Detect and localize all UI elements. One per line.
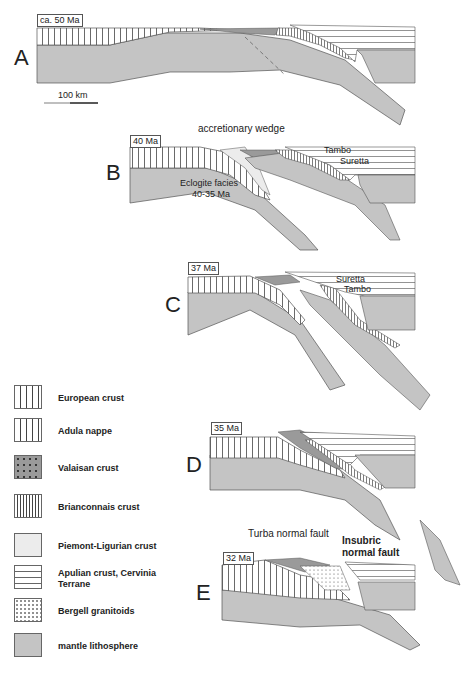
panel-letter-a: A <box>14 45 29 71</box>
slab-fragment <box>420 520 460 585</box>
annotation-turba-fault: Turba normal fault <box>248 528 329 539</box>
swatch-brianconnais <box>14 494 42 518</box>
swatch-mantle <box>14 633 42 657</box>
swatch-european <box>14 385 42 409</box>
panel-b-section <box>130 147 415 250</box>
panel-age-a: ca. 50 Ma <box>37 14 83 27</box>
panel-age-d: 35 Ma <box>211 422 242 435</box>
annotation-insubric-1: Insubric <box>342 535 381 547</box>
annotation-tambo-b: Tambo <box>324 145 351 155</box>
panel-letter-e: E <box>196 580 211 606</box>
panel-age-b: 40 Ma <box>130 135 161 148</box>
swatch-apulian <box>14 565 42 589</box>
panel-letter-b: B <box>106 160 121 186</box>
panel-e-section <box>222 558 420 650</box>
swatch-valaisan <box>14 455 42 479</box>
panel-age-c: 37 Ma <box>188 262 219 275</box>
panel-letter-c: C <box>165 292 181 318</box>
panel-age-e: 32 Ma <box>223 552 254 565</box>
annotation-accretionary-wedge: accretionary wedge <box>198 123 285 134</box>
scale-bar-label: 100 km <box>58 90 88 100</box>
annotation-insubric-2: normal fault <box>342 547 399 559</box>
swatch-piemont <box>14 533 42 557</box>
panel-letter-d: D <box>186 452 202 478</box>
swatch-adula <box>14 418 42 442</box>
panel-c-section <box>188 272 430 410</box>
annotation-eclogite: Eclogite facies <box>180 178 238 188</box>
annotation-suretta-c: Suretta <box>336 274 365 284</box>
panel-a-section <box>37 25 415 125</box>
swatch-bergell <box>14 598 42 622</box>
annotation-tambo-c: Tambo <box>344 284 371 294</box>
annotation-eclogite-age: 40-35 Ma <box>192 189 230 199</box>
annotation-suretta-b: Suretta <box>340 156 369 166</box>
